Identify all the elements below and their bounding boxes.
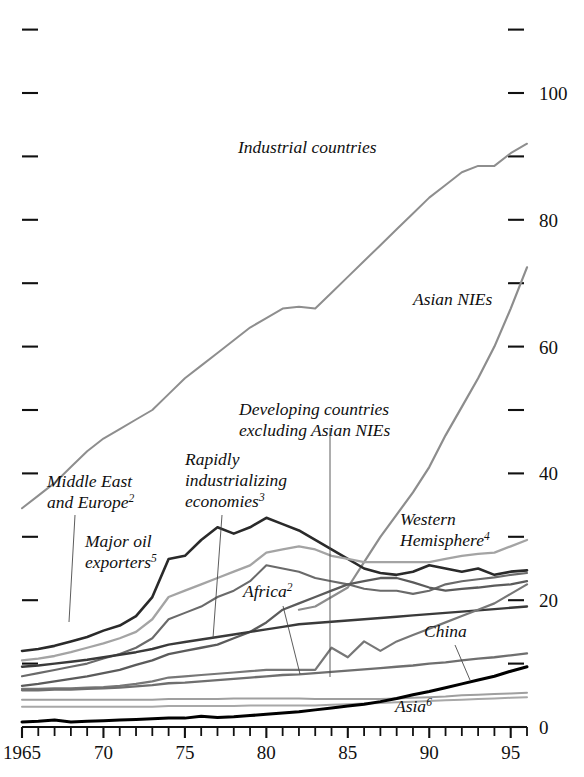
line-chart-svg: 1008060402001965707580859095 Industrial … bbox=[0, 0, 584, 777]
x-axis-tick-label: 80 bbox=[257, 742, 276, 763]
label-middle-east-and-europe: Middle Eastand Europe2 bbox=[46, 471, 135, 512]
y-axis-tick-label: 0 bbox=[539, 717, 549, 738]
x-axis-tick-label: 85 bbox=[338, 742, 357, 763]
x-axis-tick-label: 70 bbox=[94, 742, 113, 763]
label-asian-nies: Asian NIEs bbox=[412, 289, 492, 309]
y-axis-tick-label: 20 bbox=[539, 590, 558, 611]
leader-middle-east-and-europe bbox=[69, 515, 75, 622]
x-axis-tick-label: 95 bbox=[501, 742, 520, 763]
label-rapidly-industrializing-economies: Rapidlyindustrializingeconomies3 bbox=[184, 449, 287, 511]
chart-figure: 1008060402001965707580859095 Industrial … bbox=[0, 0, 584, 777]
label-developing-excluding-asian-nies: Developing countriesexcluding Asian NIEs bbox=[238, 399, 391, 440]
label-western-hemisphere: WesternHemisphere4 bbox=[399, 509, 490, 550]
x-axis-tick-label: 1965 bbox=[3, 742, 41, 763]
label-industrial-countries: Industrial countries bbox=[237, 137, 377, 157]
label-africa: Africa2 bbox=[242, 581, 293, 601]
series-line bbox=[22, 693, 527, 700]
y-axis-tick-label: 80 bbox=[539, 210, 558, 231]
y-axis-tick-label: 60 bbox=[539, 337, 558, 358]
y-axis-tick-label: 40 bbox=[539, 463, 558, 484]
label-major-oil-exporters: Major oilexporters5 bbox=[84, 531, 157, 572]
leader-africa bbox=[283, 606, 300, 674]
x-axis-tick-label: 75 bbox=[175, 742, 194, 763]
label-asia: Asia6 bbox=[394, 696, 432, 716]
series-line bbox=[22, 144, 527, 509]
leader-china bbox=[455, 645, 470, 680]
y-axis-tick-label: 100 bbox=[539, 83, 568, 104]
label-china: China bbox=[424, 621, 467, 641]
x-axis-tick-label: 90 bbox=[420, 742, 439, 763]
